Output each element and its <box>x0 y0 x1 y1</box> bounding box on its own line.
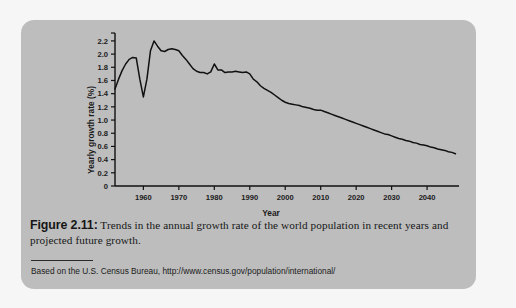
figure-caption: Figure 2.11: Trends in the annual growth… <box>30 218 450 248</box>
y-axis-title: Yearly growth rate (%) <box>86 86 96 174</box>
y-axis-tick-label: 1.8 <box>97 63 108 72</box>
source-attribution: Based on the U.S. Census Bureau, http://… <box>31 266 335 276</box>
y-axis-tick-label: 1.0 <box>97 116 108 125</box>
figure-number-label: Figure 2.11: <box>30 218 98 232</box>
y-axis-tick-label: 1.2 <box>97 103 108 112</box>
y-axis-tick-label: 0.2 <box>97 169 108 178</box>
x-axis-tick-label: 2030 <box>383 193 400 202</box>
y-axis-tick-label: 1.6 <box>97 76 108 85</box>
x-axis-tick-label: 1970 <box>170 193 187 202</box>
x-axis-tick-label: 2040 <box>419 193 436 202</box>
x-axis-tick-label: 1960 <box>135 193 152 202</box>
y-axis-tick-label: 0.6 <box>97 142 108 151</box>
y-axis-tick-label: 0.4 <box>97 155 108 164</box>
caption-paragraph: Figure 2.11: Trends in the annual growth… <box>30 218 450 248</box>
y-axis-tick-labels: 00.20.40.60.81.01.21.41.61.82.02.2 <box>97 37 108 191</box>
y-axis-tick-label: 0 <box>104 182 108 191</box>
x-axis-tick-labels: 196019701980199020002010202020302040 <box>135 193 436 202</box>
y-axis-tick-label: 1.4 <box>97 89 108 98</box>
y-axis-tick-label: 0.8 <box>97 129 108 138</box>
x-axis-tick-label: 2000 <box>277 193 294 202</box>
y-axis-tick-label: 2.2 <box>97 37 108 46</box>
figure-panel: 00.20.40.60.81.01.21.41.61.82.02.2 19601… <box>21 20 476 289</box>
x-axis-tick-label: 2010 <box>312 193 329 202</box>
growth-rate-line <box>115 41 455 154</box>
x-axis-title: Year <box>262 208 280 218</box>
x-axis-tick-label: 1990 <box>241 193 258 202</box>
x-axis-tick-label: 2020 <box>348 193 365 202</box>
y-axis-tick-label: 2.0 <box>97 50 108 59</box>
growth-rate-chart: 00.20.40.60.81.01.21.41.61.82.02.2 19601… <box>21 20 476 225</box>
source-divider <box>31 260 93 261</box>
chart-svg: 00.20.40.60.81.01.21.41.61.82.02.2 19601… <box>21 20 476 225</box>
x-axis-tick-label: 1980 <box>206 193 223 202</box>
